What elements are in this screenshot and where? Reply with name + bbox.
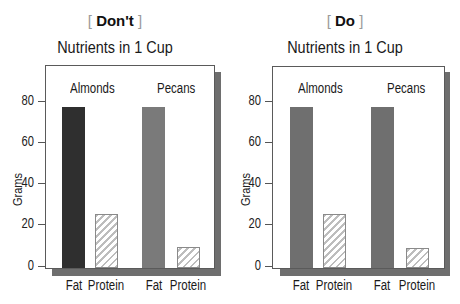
tag-label: Do (335, 12, 355, 29)
bar-pecans-fat (371, 107, 394, 268)
ytick (38, 101, 45, 102)
bar-almonds-fat (290, 107, 313, 268)
ytick (38, 142, 45, 143)
bracket-open: [ (88, 12, 92, 29)
ytick-label: 80 (15, 92, 34, 108)
do-tag: [ Do ] (230, 12, 460, 29)
bar-pecans-fat (142, 107, 165, 268)
ytick (38, 224, 45, 225)
dont-chart-panel: [ Don't ] Nutrients in 1 Cup 80 60 40 20… (0, 0, 230, 304)
x-label: Protein (86, 277, 127, 293)
tag-label: Don't (96, 12, 134, 29)
ytick (38, 266, 45, 267)
ytick-label: 0 (242, 257, 261, 273)
ytick-label: 0 (15, 257, 34, 273)
ytick (265, 142, 272, 143)
group-label-almonds: Almonds (70, 80, 115, 96)
bar-pecans-protein (177, 247, 200, 268)
bar-almonds-protein (323, 214, 346, 268)
x-label: Protein (397, 277, 438, 293)
do-chart-panel: [ Do ] Nutrients in 1 Cup 80 60 40 20 0 … (230, 0, 460, 304)
group-label-pecans: Pecans (157, 80, 195, 96)
ytick-label: 80 (242, 92, 261, 108)
ytick-label: 60 (15, 133, 34, 149)
group-label-almonds: Almonds (298, 80, 343, 96)
bracket-close: ] (138, 12, 142, 29)
ytick (265, 266, 272, 267)
x-label: Protein (314, 277, 355, 293)
group-label-pecans: Pecans (387, 80, 425, 96)
ytick-label: 20 (15, 215, 34, 231)
chart-title: Nutrients in 1 Cup (17, 38, 213, 58)
bar-almonds-protein (95, 214, 118, 268)
ytick-label: 20 (242, 215, 261, 231)
chart-title: Nutrients in 1 Cup (247, 38, 443, 58)
bracket-close: ] (359, 12, 363, 29)
ytick (265, 224, 272, 225)
bar-pecans-protein (406, 248, 429, 268)
ytick (265, 183, 272, 184)
box-shadow-right (214, 72, 221, 276)
ytick-label: 60 (242, 133, 261, 149)
y-axis-title: Grams (238, 173, 253, 206)
box-shadow-bottom (52, 268, 221, 276)
ytick (265, 101, 272, 102)
dont-tag: [ Don't ] (0, 12, 230, 29)
x-label: Protein (168, 277, 209, 293)
box-shadow-bottom (280, 268, 450, 276)
bracket-open: [ (327, 12, 331, 29)
y-axis-title: Grams (10, 173, 25, 206)
ytick (38, 183, 45, 184)
bar-almonds-fat (62, 107, 85, 268)
